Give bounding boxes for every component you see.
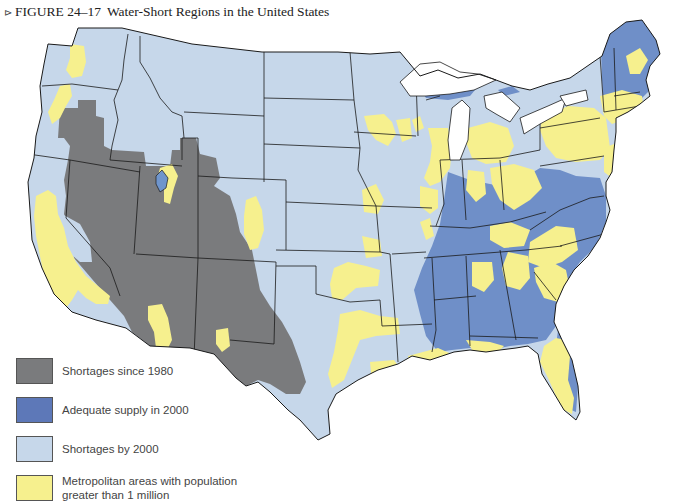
legend-item-shortages-by-2000: Shortages by 2000: [14, 434, 254, 472]
legend-swatch-gray: [16, 358, 53, 384]
map-legend: Shortages since 1980 Adequate supply in …: [14, 358, 254, 501]
legend-swatch-dark-blue: [16, 397, 53, 423]
legend-swatch-yellow: [16, 475, 53, 501]
legend-label: Metropolitan areas with population great…: [62, 474, 242, 501]
legend-label: Shortages since 1980: [62, 364, 173, 378]
legend-item-adequate-supply: Adequate supply in 2000: [14, 396, 254, 434]
legend-label: Shortages by 2000: [62, 442, 159, 456]
legend-item-metro-areas: Metropolitan areas with population great…: [14, 472, 254, 501]
legend-item-shortages-since-1980: Shortages since 1980: [14, 358, 254, 396]
legend-swatch-light-blue: [16, 436, 53, 462]
legend-label: Adequate supply in 2000: [62, 403, 189, 417]
